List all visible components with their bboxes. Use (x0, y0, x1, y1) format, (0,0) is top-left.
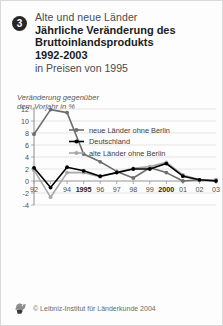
series-1 (32, 162, 218, 190)
header-subtitle-top: Alte und neue Länder (35, 11, 220, 24)
x-tick-label: 1995 (76, 185, 92, 194)
line-chart: -4-2024681012 92941995969798992000010203… (1, 101, 223, 261)
y-tick-label: -4 (23, 201, 29, 210)
y-tick-label: -2 (23, 189, 29, 198)
legend-item-2: alte Länder ohne Berlin (69, 149, 165, 158)
y-tick-label: 6 (25, 141, 29, 150)
x-tick-label: 99 (146, 185, 154, 194)
data-point (131, 176, 135, 180)
data-point (148, 167, 152, 171)
data-point (65, 165, 69, 169)
figure-number-badge: 3 (12, 16, 27, 31)
data-point (32, 166, 36, 170)
legend-label: alte Länder ohne Berlin (89, 149, 165, 158)
copyright-text: © Leibniz-Institut für Länderkunde 2004 (33, 305, 156, 312)
data-point (49, 108, 53, 112)
data-point (65, 171, 69, 175)
data-point (164, 162, 168, 166)
x-tick-label: 98 (129, 185, 137, 194)
x-tick-label: 94 (63, 185, 71, 194)
data-point (164, 171, 168, 175)
data-point (32, 132, 36, 136)
title-block: Alte und neue Länder Jährliche Veränderu… (35, 11, 220, 75)
footer: © Leibniz-Institut für Länderkunde 2004 (13, 301, 213, 316)
x-tick-label: 92 (30, 185, 38, 194)
data-point (198, 178, 202, 182)
x-tick-label: 01 (179, 185, 187, 194)
legend-marker (74, 139, 78, 143)
header-title-line1: Jährliche Veränderung des (35, 24, 220, 37)
x-tick-label: 02 (195, 185, 203, 194)
leibniz-institut-logo-icon (13, 301, 28, 316)
data-point (214, 179, 218, 183)
y-tick-label: 0 (25, 177, 29, 186)
x-tick-label: 2000 (158, 185, 174, 194)
x-tick-label: 96 (96, 185, 104, 194)
y-tick-label: 10 (21, 117, 29, 126)
data-point (115, 171, 119, 175)
data-point (181, 179, 185, 183)
data-point (49, 186, 53, 190)
header-title-line2: Bruttoinlandsprodukts (35, 36, 220, 49)
data-point (131, 167, 135, 171)
x-tick-label: 97 (113, 185, 121, 194)
y-tick-label: 2 (25, 165, 29, 174)
y-tick-label: 4 (25, 153, 29, 162)
data-point (82, 169, 86, 173)
data-point (181, 174, 185, 178)
y-tick-label: 8 (25, 129, 29, 138)
y-tick-label: 12 (21, 105, 29, 114)
data-point (98, 160, 102, 164)
infographic-page: 3 Alte und neue Länder Jährliche Verände… (0, 0, 223, 326)
legend-label: Deutschland (89, 137, 130, 146)
data-point (65, 111, 69, 115)
y-axis-ticks: -4-2024681012 (21, 105, 29, 210)
legend-marker (74, 128, 78, 132)
x-tick-label: 03 (212, 185, 220, 194)
header-subtitle-bottom: in Preisen von 1995 (35, 62, 220, 75)
legend-label: neue Länder ohne Berlin (89, 126, 170, 135)
data-point (49, 195, 53, 199)
legend-marker (74, 151, 78, 155)
chart-canvas: -4-2024681012 92941995969798992000010203… (1, 101, 223, 261)
data-point (98, 174, 102, 178)
header-title-years: 1992-2003 (35, 49, 220, 62)
